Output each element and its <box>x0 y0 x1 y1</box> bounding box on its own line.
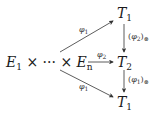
node-base: T <box>117 5 126 21</box>
label-phi1-top: φ1 <box>79 26 88 35</box>
tensor-subscript: ⊗ <box>144 78 149 85</box>
node-sub: 2 <box>126 62 132 72</box>
label-phi1-tensor: (φ1)⊗ <box>128 76 149 85</box>
label-phi2-middle: φ2 <box>97 51 106 60</box>
node-base: T <box>117 94 126 110</box>
node-t1-bottom: T1 <box>117 95 132 112</box>
label-sub: 2 <box>103 53 107 60</box>
node-product: E1 × ··· × En <box>6 55 93 72</box>
node-base: T <box>117 54 126 70</box>
label-phi1-bottom: φ1 <box>79 83 88 92</box>
times-ellipsis: × ··· × <box>22 54 77 70</box>
label-sub: 1 <box>85 28 89 35</box>
node-t1-top: T1 <box>117 6 132 23</box>
factor-e-first: E <box>6 54 16 70</box>
node-t2: T2 <box>117 55 132 72</box>
tensor-subscript: ⊗ <box>144 35 149 42</box>
node-sub: 1 <box>126 102 132 112</box>
node-sub: 1 <box>126 13 132 23</box>
factor-e-last: E <box>77 54 87 70</box>
label-sub: 1 <box>85 85 89 92</box>
subscript-n: n <box>87 62 93 72</box>
label-phi2-tensor: (φ2)⊗ <box>128 33 149 42</box>
